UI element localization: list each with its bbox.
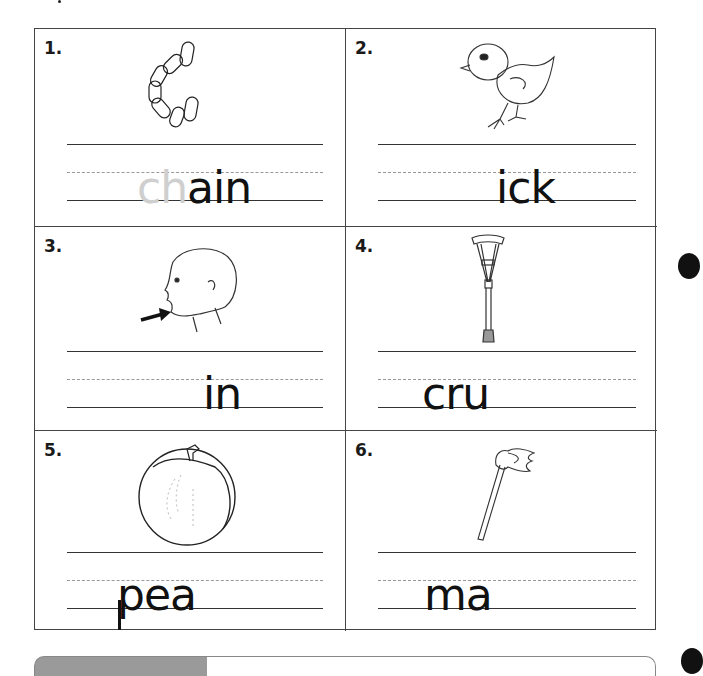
item-chain: 1. chain: [35, 29, 346, 227]
word-answer[interactable]: in: [203, 372, 241, 416]
given-letters: ick: [496, 162, 555, 213]
word-answer[interactable]: ma: [424, 573, 492, 617]
given-letters: ain: [187, 162, 251, 213]
given-letters: pea: [117, 569, 196, 620]
item-number: 5.: [44, 440, 62, 460]
word-answer[interactable]: ick: [496, 166, 555, 210]
item-crutch: 4. cru: [346, 227, 657, 431]
worksheet-grid: 1. chain 2.: [34, 28, 656, 630]
match-icon: [474, 443, 554, 543]
item-number: 6.: [355, 440, 373, 460]
item-number: 2.: [355, 38, 373, 58]
word-answer[interactable]: pea: [117, 573, 196, 617]
given-letters: ma: [424, 569, 492, 620]
p-descender: [118, 600, 121, 630]
word-answer[interactable]: chain: [137, 166, 251, 210]
margin-dot: [681, 648, 703, 674]
word-answer[interactable]: cru: [422, 372, 489, 416]
item-peach: 5. pea: [35, 431, 346, 631]
page-mark: [58, 0, 61, 3]
item-chick: 2. ick: [346, 29, 657, 227]
margin-dot: [678, 253, 700, 279]
item-chin: 3. in: [35, 227, 346, 431]
bottom-banner: [34, 656, 656, 676]
item-number: 4.: [355, 236, 373, 256]
traced-letters: ch: [137, 162, 187, 213]
writing-lines: [67, 351, 323, 411]
given-letters: cru: [422, 368, 489, 419]
given-letters: in: [203, 368, 241, 419]
chain-icon: [143, 37, 213, 132]
writing-lines: [378, 552, 636, 612]
peach-icon: [135, 439, 245, 547]
chick-icon: [458, 37, 560, 132]
item-match: 6. ma: [346, 431, 657, 631]
chin-icon: [133, 242, 253, 342]
writing-lines: [378, 351, 636, 411]
item-number: 3.: [44, 236, 62, 256]
crutch-icon: [468, 232, 508, 344]
item-number: 1.: [44, 38, 62, 58]
